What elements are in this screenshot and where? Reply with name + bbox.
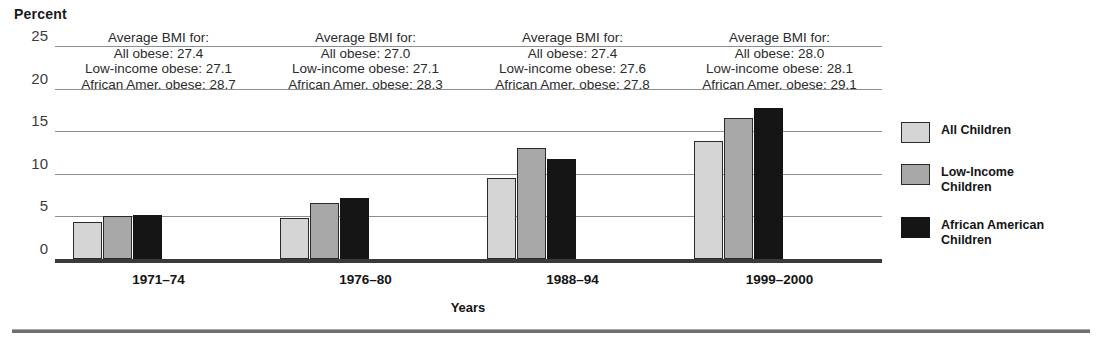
bar <box>547 159 576 259</box>
legend-label-line1: All Children <box>941 123 1011 137</box>
y-tick-15: 15 <box>8 112 48 131</box>
x-axis-labels: 1971–74 1976–80 1988–94 1999–2000 <box>55 272 882 292</box>
x-label-3: 1988–94 <box>469 272 676 287</box>
legend-label-all-children: All Children <box>941 122 1011 138</box>
x-axis-title-text: Years <box>451 300 486 315</box>
annotation-header: Average BMI for: <box>469 30 676 46</box>
bar <box>73 222 102 259</box>
bar-group <box>262 46 469 259</box>
bar <box>517 148 546 259</box>
annotation-header: Average BMI for: <box>55 30 262 46</box>
bottom-divider <box>12 329 1090 333</box>
y-axis-title: Percent <box>14 6 67 22</box>
y-tick-10: 10 <box>8 155 48 174</box>
legend-item-african-american-children: African American Children <box>901 217 1044 247</box>
y-axis-ticks: 25 20 15 10 5 0 <box>0 46 48 259</box>
bars-layer <box>55 46 882 259</box>
bar-group <box>676 46 883 259</box>
x-label-4: 1999–2000 <box>676 272 883 287</box>
annotation-header: Average BMI for: <box>676 30 883 46</box>
bar <box>280 218 309 259</box>
legend-swatch-african-american-children <box>901 217 930 238</box>
x-label-1: 1971–74 <box>55 272 262 287</box>
bar-chart-figure: Percent 25 20 15 10 5 0 Average BMI for:… <box>0 0 1096 342</box>
legend-label-low-income-children: Low-Income Children <box>941 164 1014 194</box>
legend-label-line1: Low-Income <box>941 165 1014 179</box>
bar-group <box>55 46 262 259</box>
bar <box>487 178 516 259</box>
bar <box>133 215 162 259</box>
legend-item-low-income-children: Low-Income Children <box>901 164 1014 194</box>
y-tick-25: 25 <box>8 27 48 46</box>
bar <box>694 141 723 259</box>
legend-item-all-children: All Children <box>901 122 1011 143</box>
bar <box>754 108 783 259</box>
legend-label-line2: Children <box>941 233 1044 248</box>
legend-swatch-low-income-children <box>901 164 930 185</box>
annotation-header: Average BMI for: <box>262 30 469 46</box>
bar-group <box>469 46 676 259</box>
bar <box>340 198 369 259</box>
legend-label-line2: Children <box>941 180 1014 195</box>
bar <box>103 216 132 259</box>
bar <box>310 203 339 259</box>
x-label-2: 1976–80 <box>262 272 469 287</box>
y-tick-0: 0 <box>8 240 48 259</box>
legend-swatch-all-children <box>901 122 930 143</box>
legend-label-african-american-children: African American Children <box>941 217 1044 247</box>
y-tick-5: 5 <box>8 197 48 216</box>
x-axis-title: Years <box>0 300 1096 315</box>
y-tick-20: 20 <box>8 70 48 89</box>
legend-label-line1: African American <box>941 218 1044 232</box>
bar <box>724 118 753 259</box>
x-axis-baseline <box>55 259 882 263</box>
